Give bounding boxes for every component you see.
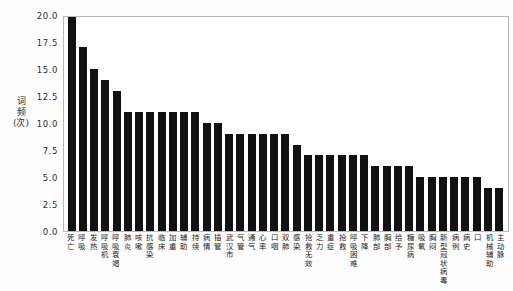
x-label-slot: 呼吸	[76, 234, 87, 291]
bar	[214, 123, 222, 231]
x-label-slot: 胸部	[382, 234, 393, 291]
bar	[180, 112, 188, 231]
x-label-slot: 呼吸困难	[348, 234, 359, 291]
bar	[315, 155, 323, 231]
x-axis-tick-label: 胸闷	[428, 234, 437, 291]
x-label-slot: 武汉市	[223, 234, 234, 291]
y-axis-tick-label: 17.5	[37, 38, 58, 48]
bar	[304, 155, 312, 231]
x-axis-tick-label: 咳嗽	[134, 234, 143, 291]
x-label-slot: 咳嗽	[133, 234, 144, 291]
x-label-slot: 胸闷	[427, 234, 438, 291]
bar	[349, 155, 357, 231]
bar-slot	[111, 17, 122, 231]
x-label-slot: 呼吸机	[99, 234, 110, 291]
x-axis-tick-label: 病情	[202, 234, 211, 291]
bar-slot	[201, 17, 212, 231]
x-label-slot: 新型冠状病毒	[438, 234, 449, 291]
x-axis-tick-label: 呼吸	[77, 234, 86, 291]
x-label-slot: 发热	[88, 234, 99, 291]
x-axis-tick-label: 抢救	[338, 234, 347, 291]
bar	[495, 188, 503, 231]
bar	[473, 177, 481, 231]
y-axis-tick-label: 12.5	[37, 92, 58, 102]
bar-slot	[314, 17, 325, 231]
x-label-slot: 吸氧	[416, 234, 427, 291]
bar	[113, 91, 121, 231]
bar	[158, 112, 166, 231]
x-axis-tick-label: 持续	[191, 234, 200, 291]
y-axis-tick-label: 0.0	[43, 227, 58, 237]
bar	[338, 155, 346, 231]
x-axis-tick-label: 发热	[89, 234, 98, 291]
bar-slot	[156, 17, 167, 231]
y-axis-tick-label: 2.5	[43, 200, 58, 210]
x-axis-tick-label: 口咽	[270, 234, 279, 291]
bar-slot	[370, 17, 381, 231]
bar-slot	[426, 17, 437, 231]
x-label-slot: 抢救无效	[303, 234, 314, 291]
x-label-slot: 持续	[189, 234, 200, 291]
y-axis-tick-label: 20.0	[37, 11, 58, 21]
x-axis-tick-label: 病例	[451, 234, 460, 291]
bar-slot	[381, 17, 392, 231]
x-label-slot: 乏力	[314, 234, 325, 291]
x-label-slot: 机械辅助	[484, 234, 495, 291]
bar-slot	[471, 17, 482, 231]
bar-slot	[494, 17, 505, 231]
x-label-slot: 呼吸衰竭	[110, 234, 121, 291]
x-label-slot: 双肺	[280, 234, 291, 291]
x-label-slot: 糖尿病	[404, 234, 415, 291]
x-label-slot: 下降	[359, 234, 370, 291]
bar-slot	[235, 17, 246, 231]
x-label-slot: 主动脉	[495, 234, 506, 291]
x-axis-tick-label: 机械辅助	[485, 234, 494, 291]
bar-slot	[145, 17, 156, 231]
x-label-slot: 口	[472, 234, 483, 291]
plot-area	[63, 16, 509, 232]
bar	[68, 16, 76, 231]
bar-slot	[291, 17, 302, 231]
bar	[236, 134, 244, 231]
bar-slot	[179, 17, 190, 231]
bar-slot	[224, 17, 235, 231]
y-axis-tick-label: 5.0	[43, 173, 58, 183]
x-label-slot: 口咽	[269, 234, 280, 291]
bar-slot	[66, 17, 77, 231]
y-axis-tick-label: 15.0	[37, 65, 58, 75]
x-label-slot: 肺炎	[122, 234, 133, 291]
bar-slot	[449, 17, 460, 231]
bar-slot	[77, 17, 88, 231]
bar	[450, 177, 458, 231]
x-label-slot: 死亡	[65, 234, 76, 291]
x-axis-tick-label: 辅助	[179, 234, 188, 291]
bar-slot	[482, 17, 493, 231]
bar-slot	[336, 17, 347, 231]
x-axis-tick-label: 下降	[360, 234, 369, 291]
bar-slot	[404, 17, 415, 231]
bar	[191, 112, 199, 231]
bar	[371, 166, 379, 231]
bar	[383, 166, 391, 231]
bar	[169, 112, 177, 231]
x-label-slot: 插管	[212, 234, 223, 291]
bar	[270, 134, 278, 231]
x-axis-tick-label: 通气	[247, 234, 256, 291]
x-axis-tick-label: 肺部	[372, 234, 381, 291]
x-label-slot: 重症	[325, 234, 336, 291]
x-axis-tick-label: 重症	[326, 234, 335, 291]
bar-slot	[280, 17, 291, 231]
x-axis-tick-label: 吸氧	[417, 234, 426, 291]
x-axis-tick-label: 加重	[168, 234, 177, 291]
x-axis-tick-label: 武汉市	[225, 234, 234, 291]
y-axis-tick-label: 7.5	[43, 146, 58, 156]
bar-slot	[460, 17, 471, 231]
x-axis-tick-label: 胸部	[383, 234, 392, 291]
bar	[124, 112, 132, 231]
word-frequency-bar-chart: 词 频 (次) 0.02.55.07.510.012.515.017.520.0…	[0, 0, 513, 291]
x-axis-tick-label: 插管	[213, 234, 222, 291]
y-axis-tick-labels: 0.02.55.07.510.012.515.017.520.0	[22, 16, 62, 232]
x-label-slot: 肺部	[370, 234, 381, 291]
bar-slot	[347, 17, 358, 231]
bar	[248, 134, 256, 231]
